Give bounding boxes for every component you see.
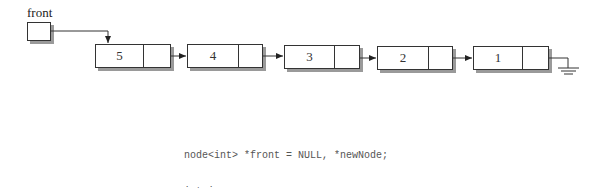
- front-arrow: [51, 31, 108, 43]
- code-line: int i;: [184, 186, 388, 188]
- code-block: node<int> *front = NULL, *newNode; int i…: [184, 126, 388, 188]
- null-ground-icon: [549, 58, 579, 74]
- code-line: node<int> *front = NULL, *newNode;: [184, 150, 388, 162]
